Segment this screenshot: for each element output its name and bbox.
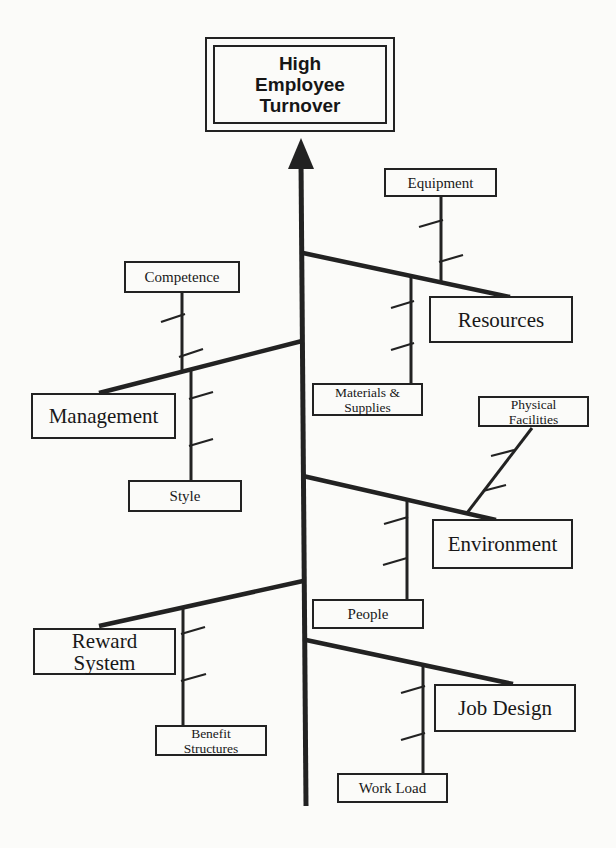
box-label: Physical — [511, 397, 557, 412]
cause-box-materials-supplies: Materials &Supplies — [312, 383, 423, 416]
box-label: Style — [170, 488, 201, 504]
box-label: Facilities — [509, 412, 559, 427]
category-box-environment: Environment — [432, 519, 573, 569]
box-label: Structures — [184, 741, 239, 756]
box-label: Environment — [448, 533, 558, 555]
cause-box-style: Style — [128, 480, 242, 512]
box-label: Materials & — [335, 385, 400, 400]
category-box-reward-system: RewardSystem — [33, 628, 176, 675]
box-label: Benefit — [191, 726, 231, 741]
box-label: Equipment — [408, 175, 474, 191]
box-label: Management — [49, 405, 159, 427]
box-label: People — [348, 606, 389, 622]
category-box-resources: Resources — [429, 296, 573, 343]
box-label: Job Design — [458, 697, 552, 719]
box-label: Reward — [72, 630, 137, 652]
box-label: Resources — [458, 309, 544, 331]
cause-box-competence: Competence — [124, 261, 240, 293]
cause-box-equipment: Equipment — [384, 168, 497, 197]
box-label: Supplies — [344, 400, 391, 415]
cause-box-physical-facilities: PhysicalFacilities — [478, 396, 589, 427]
box-label: System — [74, 652, 136, 674]
category-box-job-design: Job Design — [434, 684, 576, 732]
cause-box-work-load: Work Load — [337, 773, 448, 803]
category-box-management: Management — [31, 393, 176, 439]
box-label: Work Load — [359, 780, 427, 796]
cause-box-people: People — [312, 599, 424, 629]
box-label: Competence — [145, 269, 220, 285]
cause-box-benefit-structures: BenefitStructures — [155, 725, 267, 756]
fishbone-diagram-page: High Employee Turnover ResourcesManageme… — [0, 0, 616, 848]
boxes-layer: ResourcesManagementEnvironmentRewardSyst… — [0, 0, 616, 848]
